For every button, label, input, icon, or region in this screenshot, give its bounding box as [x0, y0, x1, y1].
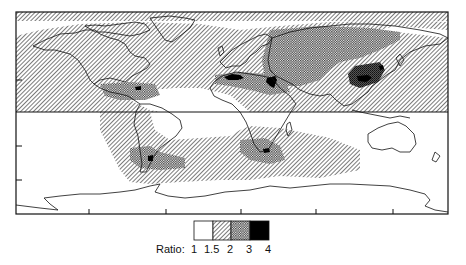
coast-antarctica: [16, 184, 448, 212]
legend-title: Ratio:: [156, 243, 185, 255]
legend-swatch-3: [250, 221, 269, 240]
legend-swatch-1: [194, 221, 213, 240]
region-arctic-hatch: [16, 12, 448, 21]
legend: Ratio: 1 1.5 2 3 4: [156, 221, 271, 255]
coast-australia: [368, 122, 416, 152]
legend-tick-1: 1: [191, 243, 197, 255]
legend-swatch-2: [231, 221, 250, 240]
legend-swatch-1-5: [213, 221, 231, 240]
legend-tick-2: 2: [227, 243, 233, 255]
legend-tick-3: 3: [246, 243, 252, 255]
legend-tick-4: 4: [265, 243, 271, 255]
shading-layer: [16, 12, 448, 184]
legend-tick-1-5: 1.5: [204, 243, 219, 255]
ratio-world-map: Ratio: 1 1.5 2 3 4: [0, 0, 466, 265]
coast-new-zealand: [432, 152, 440, 162]
